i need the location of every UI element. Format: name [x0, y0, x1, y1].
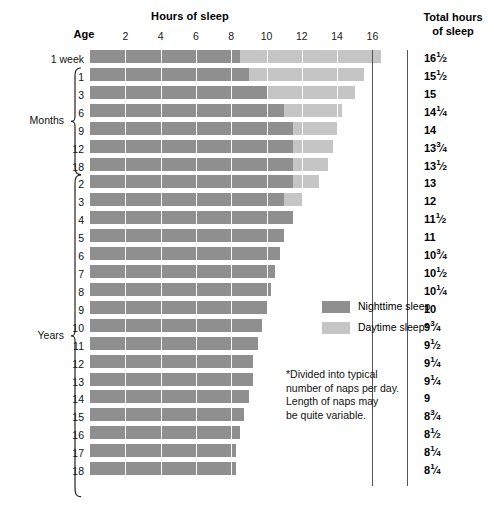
bar-row — [90, 390, 249, 403]
legend-label-daytime: Daytime sleep* — [358, 321, 429, 333]
bar-segment-nighttime — [90, 319, 262, 332]
bar-row — [90, 355, 253, 368]
total-hours-value: 91⁄2 — [424, 339, 441, 351]
bar-row — [90, 104, 342, 117]
x-tick-10: 10 — [255, 30, 279, 42]
column-header-age: Age — [62, 28, 106, 40]
bar-row — [90, 319, 262, 332]
bar-row — [90, 444, 236, 457]
total-hours-value: 81⁄4 — [424, 446, 441, 458]
bar-segment-nighttime — [90, 229, 284, 242]
footnote-line-3: Length of naps may — [286, 395, 378, 407]
sleep-chart: Hours of sleep Age Total hours of sleep … — [0, 0, 494, 510]
bar-segment-daytime — [284, 193, 302, 206]
total-header-line-2: of sleep — [432, 25, 474, 37]
bar-segment-daytime — [293, 175, 319, 188]
bar-segment-nighttime — [90, 373, 253, 386]
bar-segment-nighttime — [90, 408, 244, 421]
bar-segment-nighttime — [90, 158, 293, 171]
bar-row — [90, 140, 333, 153]
total-hours-value: 131⁄2 — [424, 160, 447, 172]
bar-segment-nighttime — [90, 390, 249, 403]
bar-segment-nighttime — [90, 193, 284, 206]
footnote-line-4: be quite variable. — [286, 409, 366, 421]
total-hours-value: 12 — [424, 195, 436, 207]
x-tick-8: 8 — [219, 30, 243, 42]
gridline-6 — [196, 50, 197, 486]
total-hours-value: 103⁄4 — [424, 249, 447, 261]
bar-segment-nighttime — [90, 355, 253, 368]
total-hours-value: 161⁄2 — [424, 52, 447, 64]
gridline-2 — [125, 50, 126, 486]
column-header-total-hours: Total hours of sleep — [412, 10, 494, 38]
bar-segment-nighttime — [90, 247, 280, 260]
bar-segment-daytime — [284, 104, 341, 117]
bar-segment-daytime — [240, 50, 381, 63]
bar-segment-nighttime — [90, 68, 249, 81]
bar-row — [90, 337, 258, 350]
bar-segment-nighttime — [90, 265, 275, 278]
bar-segment-nighttime — [90, 86, 267, 99]
bar-row — [90, 426, 240, 439]
total-hours-value: 133⁄4 — [424, 142, 447, 154]
bar-segment-nighttime — [90, 122, 293, 135]
total-hours-value: 83⁄4 — [424, 410, 441, 422]
bar-row — [90, 68, 364, 81]
total-hours-value: 141⁄4 — [424, 106, 447, 118]
bar-segment-nighttime — [90, 301, 267, 314]
bar-segment-daytime — [267, 86, 355, 99]
total-hours-value: 15 — [424, 88, 436, 100]
bar-row — [90, 122, 337, 135]
total-hours-value: 13 — [424, 177, 436, 189]
chart-title-hours-of-sleep: Hours of sleep — [0, 10, 380, 22]
bar-segment-daytime — [293, 158, 328, 171]
bar-segment-daytime — [293, 122, 337, 135]
bar-row — [90, 211, 293, 224]
bar-segment-nighttime — [90, 426, 240, 439]
total-hours-value: 151⁄2 — [424, 70, 447, 82]
x-tick-14: 14 — [325, 30, 349, 42]
bar-row — [90, 301, 267, 314]
footnote-line-1: *Divided into typical — [286, 368, 378, 380]
bar-row — [90, 408, 244, 421]
total-hours-value: 91⁄4 — [424, 357, 441, 369]
total-hours-value: 11 — [424, 231, 436, 243]
legend-swatch-nighttime — [322, 301, 350, 313]
bar-segment-nighttime — [90, 444, 236, 457]
gridline-8 — [231, 50, 232, 486]
legend-swatch-daytime — [322, 322, 350, 334]
total-hours-value: 81⁄2 — [424, 428, 441, 440]
x-tick-6: 6 — [184, 30, 208, 42]
bar-row — [90, 373, 253, 386]
bar-segment-nighttime — [90, 283, 271, 296]
bar-segment-nighttime — [90, 211, 293, 224]
total-hours-value: 101⁄4 — [424, 285, 447, 297]
group-label-months: Months — [12, 114, 64, 126]
bar-segment-nighttime — [90, 462, 236, 475]
legend-label-nighttime: Nighttime sleep — [358, 300, 430, 312]
bar-segment-nighttime — [90, 50, 240, 63]
bar-segment-daytime — [293, 140, 333, 153]
x-tick-12: 12 — [290, 30, 314, 42]
x-tick-2: 2 — [113, 30, 137, 42]
gridline-10 — [267, 50, 268, 486]
x-tick-16: 16 — [360, 30, 384, 42]
bar-segment-nighttime — [90, 104, 284, 117]
total-header-line-1: Total hours — [423, 11, 482, 23]
bar-segment-nighttime — [90, 337, 258, 350]
brace-months — [70, 67, 82, 176]
bar-row — [90, 265, 275, 278]
bar-row — [90, 283, 271, 296]
bar-row — [90, 86, 355, 99]
total-hours-value: 111⁄2 — [424, 213, 446, 225]
footnote-naps: *Divided into typical number of naps per… — [286, 368, 411, 422]
bar-row — [90, 247, 280, 260]
bar-row — [90, 462, 236, 475]
total-hours-value: 81⁄4 — [424, 464, 441, 476]
group-label-years: Years — [12, 329, 64, 341]
total-hours-value: 91⁄4 — [424, 375, 441, 387]
gridline-4 — [161, 50, 162, 486]
age-label-1-week: 1 week — [28, 53, 84, 65]
footnote-line-2: number of naps per day. — [286, 382, 399, 394]
total-hours-value: 14 — [424, 124, 436, 136]
